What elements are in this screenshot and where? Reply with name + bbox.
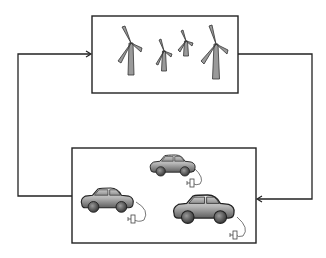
diagram-canvas (0, 0, 326, 258)
electric-vehicles-box (72, 148, 256, 243)
wind-farm-box (92, 16, 238, 93)
